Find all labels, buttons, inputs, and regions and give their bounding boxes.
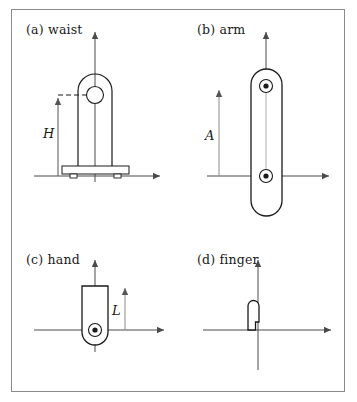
panel-waist-drawing: H (12, 10, 179, 242)
figure-root: (a) waist (0, 0, 357, 402)
panel-finger: (d) finger (179, 242, 346, 393)
waist-joint-icon (87, 87, 104, 104)
hand-dimension-label: L (111, 303, 121, 318)
arm-joint-lower-icon (260, 170, 273, 183)
panel-arm-drawing: A (179, 10, 346, 242)
panel-hand-drawing: L (12, 242, 179, 393)
finger-body (248, 301, 259, 331)
hand-joint-icon (89, 324, 102, 337)
figure-border: (a) waist (11, 9, 345, 392)
panel-hand: (c) hand (12, 242, 179, 393)
arm-joint-upper-icon (260, 80, 273, 93)
waist-dimension-label: H (42, 126, 55, 141)
panel-arm: (b) arm (179, 10, 346, 242)
arm-dimension-label: A (204, 128, 214, 143)
waist-base-plate (62, 166, 129, 174)
panel-finger-drawing (179, 242, 346, 393)
panel-waist: (a) waist (12, 10, 179, 242)
waist-foot-right (114, 174, 121, 178)
waist-foot-left (70, 174, 77, 178)
